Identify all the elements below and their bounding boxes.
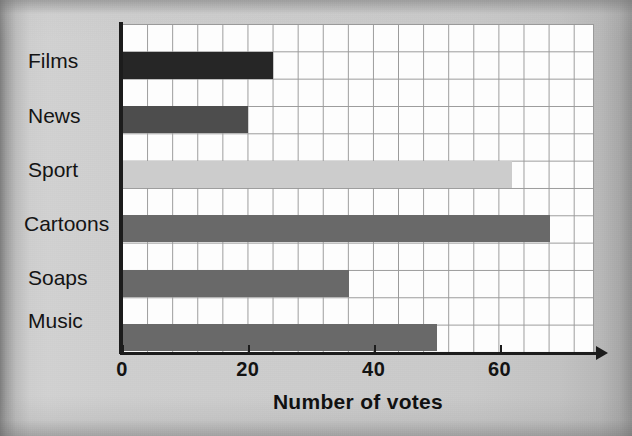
bar-cartoons (122, 215, 550, 242)
bar-news (122, 106, 248, 133)
category-label-sport: Sport (0, 158, 114, 182)
category-label-news: News (0, 104, 114, 128)
x-tick-label-0: 0 (116, 358, 128, 381)
bar-sport (122, 161, 512, 188)
grid-right-edge (593, 24, 594, 352)
bar-films (122, 52, 273, 79)
x-axis-line (120, 352, 602, 355)
x-axis-title: Number of votes (122, 390, 594, 414)
x-tick-40 (374, 345, 376, 353)
x-tick-label-60: 60 (488, 358, 511, 381)
y-axis-line (119, 22, 123, 354)
x-axis-arrow-icon (596, 346, 608, 360)
x-tick-label-40: 40 (362, 358, 385, 381)
chart-screenshot: Films News Sport Cartoons Soaps Music 0 … (0, 0, 632, 436)
category-label-music: Music (0, 309, 114, 333)
plot-area (122, 24, 594, 352)
bar-soaps (122, 270, 349, 297)
x-tick-label-20: 20 (236, 358, 259, 381)
x-tick-0 (122, 345, 124, 353)
x-tick-60 (500, 345, 502, 353)
category-label-films: Films (0, 49, 114, 73)
category-label-soaps: Soaps (0, 266, 114, 290)
grid-top-edge (122, 24, 594, 25)
x-tick-20 (248, 345, 250, 353)
bar-music (122, 324, 437, 351)
category-label-cartoons: Cartoons (0, 212, 114, 236)
